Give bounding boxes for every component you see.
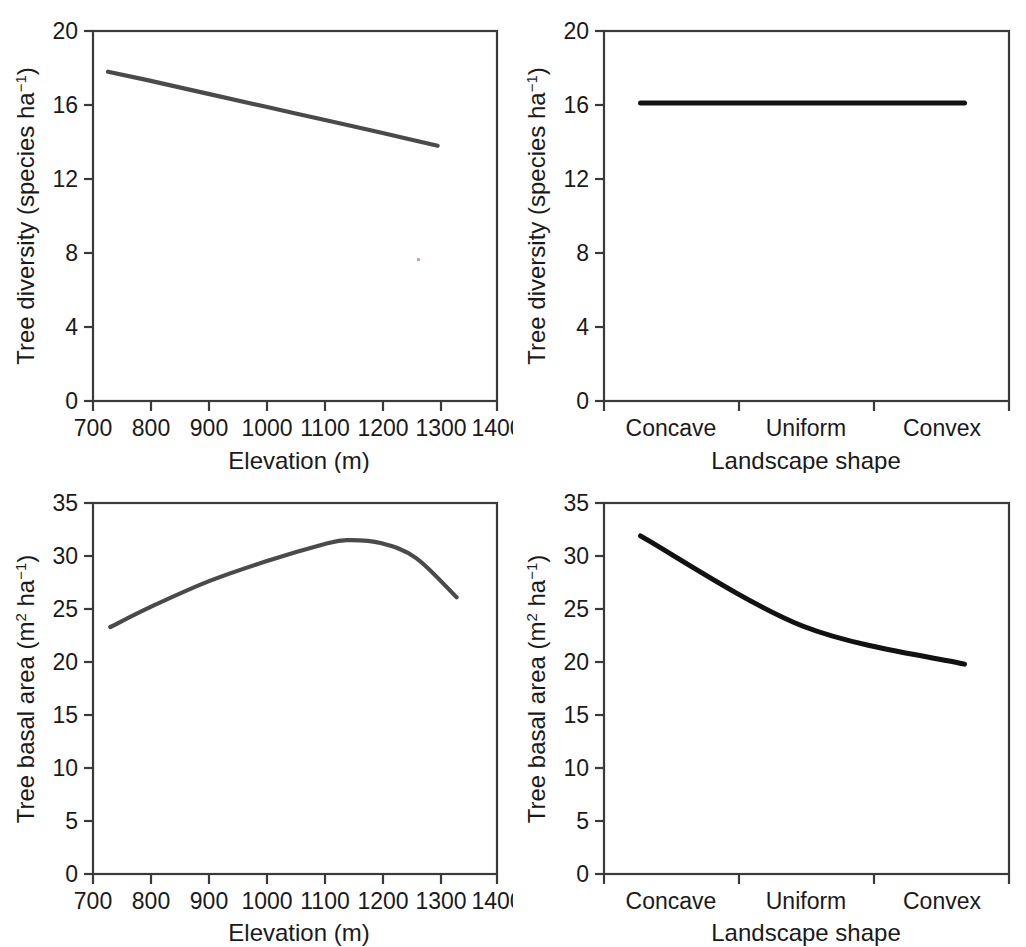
data-line-tree-diversity (108, 72, 438, 146)
x-tick-label: 1400 (471, 415, 513, 441)
plot-area-bottom-left: 0 5 10 15 20 25 30 35 700 800 900 1000 1… (0, 473, 513, 947)
x-category-label: Convex (903, 415, 981, 441)
y-tick-label: 8 (65, 240, 78, 266)
y-tick-marks (84, 503, 93, 874)
x-tick-marks (604, 874, 1009, 884)
y-tick-label: 20 (52, 649, 78, 675)
y-tick-label: 16 (52, 92, 78, 118)
y-tick-label: 15 (563, 702, 589, 728)
y-tick-label: 10 (563, 755, 589, 781)
y-tick-label: 25 (52, 596, 78, 622)
axes-frame (93, 503, 497, 874)
x-tick-label: 1100 (300, 888, 349, 914)
x-tick-label: 1300 (415, 415, 466, 441)
x-tick-label: 1100 (300, 415, 349, 441)
panel-tree-basal-area-vs-landscape-shape: 0 5 10 15 20 25 30 35 Concave Uniform Co… (513, 473, 1026, 947)
y-tick-label: 12 (52, 166, 78, 192)
y-tick-label: 10 (52, 755, 78, 781)
x-tick-label: 800 (132, 415, 170, 441)
y-axis-label: Tree basal area (m2 ha−1) (12, 555, 39, 824)
y-tick-label: 30 (52, 543, 78, 569)
y-tick-label: 35 (563, 490, 589, 516)
y-tick-label: 15 (52, 702, 78, 728)
y-axis-label: Tree diversity (species ha−1) (523, 67, 550, 365)
x-axis-label: Landscape shape (711, 919, 901, 946)
x-axis-label: Elevation (m) (228, 447, 369, 473)
x-tick-label: 1200 (357, 415, 408, 441)
x-tick-label: 1400 (471, 888, 513, 914)
y-tick-label: 16 (563, 92, 589, 118)
plot-area-top-right: 0 4 8 12 16 20 Concave Uniform Convex La… (513, 0, 1026, 473)
panel-tree-diversity-vs-landscape-shape: 0 4 8 12 16 20 Concave Uniform Convex La… (513, 0, 1026, 473)
x-category-label: Concave (626, 888, 717, 914)
x-axis-label: Elevation (m) (228, 919, 369, 946)
figure-canvas: 0 4 8 12 16 20 700 800 900 1000 1100 120… (0, 0, 1026, 947)
x-tick-marks (93, 874, 497, 884)
x-tick-label: 700 (74, 415, 112, 441)
x-tick-marks (604, 401, 1009, 411)
data-curve-tree-basal-area (641, 536, 965, 664)
y-tick-label: 25 (563, 596, 589, 622)
y-tick-marks (595, 503, 604, 874)
panel-tree-diversity-vs-elevation: 0 4 8 12 16 20 700 800 900 1000 1100 120… (0, 0, 513, 473)
x-tick-marks (93, 401, 497, 411)
y-axis-label: Tree diversity (species ha−1) (12, 67, 39, 365)
x-category-label: Uniform (766, 415, 847, 441)
x-tick-label: 900 (190, 415, 228, 441)
x-category-label: Concave (626, 415, 717, 441)
y-tick-label: 20 (563, 649, 589, 675)
panel-tree-basal-area-vs-elevation: 0 5 10 15 20 25 30 35 700 800 900 1000 1… (0, 473, 513, 947)
y-tick-label: 30 (563, 543, 589, 569)
y-tick-label: 20 (52, 18, 78, 44)
y-tick-label: 5 (576, 808, 589, 834)
x-tick-label: 1200 (357, 888, 408, 914)
y-tick-marks (84, 31, 93, 401)
plot-area-bottom-right: 0 5 10 15 20 25 30 35 Concave Uniform Co… (513, 473, 1026, 947)
x-tick-label: 700 (74, 888, 112, 914)
y-tick-label: 4 (65, 314, 78, 340)
y-tick-label: 20 (563, 18, 589, 44)
y-tick-marks (595, 31, 604, 401)
y-tick-label: 0 (65, 861, 78, 887)
x-tick-label: 1000 (241, 415, 292, 441)
x-category-label: Uniform (766, 888, 847, 914)
x-tick-label: 1000 (241, 888, 292, 914)
scan-speck (417, 258, 420, 261)
y-tick-label: 4 (576, 314, 589, 340)
axes-frame (604, 31, 1009, 401)
x-category-label: Convex (903, 888, 981, 914)
y-tick-label: 12 (563, 166, 589, 192)
y-tick-label: 8 (576, 240, 589, 266)
axes-frame (604, 503, 1009, 874)
x-tick-label: 900 (190, 888, 228, 914)
plot-area-top-left: 0 4 8 12 16 20 700 800 900 1000 1100 120… (0, 0, 513, 473)
y-tick-label: 0 (65, 388, 78, 414)
y-tick-label: 0 (576, 861, 589, 887)
x-axis-label: Landscape shape (711, 447, 901, 473)
x-tick-label: 800 (132, 888, 170, 914)
y-tick-label: 35 (52, 490, 78, 516)
data-curve-tree-basal-area (110, 540, 456, 627)
axes-frame (93, 31, 497, 401)
y-tick-label: 5 (65, 808, 78, 834)
y-tick-label: 0 (576, 388, 589, 414)
y-axis-label: Tree basal area (m2 ha−1) (523, 555, 550, 824)
x-tick-label: 1300 (415, 888, 466, 914)
